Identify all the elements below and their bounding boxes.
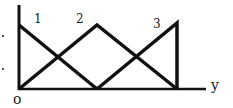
x-axis-label: y [211, 78, 219, 92]
curve-2 [19, 25, 177, 89]
membership-function-diagram: 1 2 3 y o [0, 0, 233, 108]
cropped-tick-mark-lower [2, 68, 4, 70]
origin-label: o [13, 92, 21, 106]
cropped-tick-mark-upper [2, 35, 4, 37]
curve-2-label: 2 [76, 13, 84, 25]
curve-1-label: 1 [34, 13, 42, 25]
curve-3-label: 3 [153, 18, 161, 30]
